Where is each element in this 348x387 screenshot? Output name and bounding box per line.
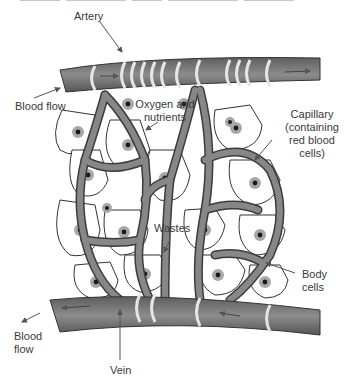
capillary-pointer (255, 140, 272, 160)
capillary-bed-diagram (0, 0, 348, 387)
label-blood-flow-bottom-line1: Blood (14, 330, 42, 343)
label-body-cells-line2: cells (302, 281, 327, 294)
label-blood-flow-bottom: Blood flow (14, 330, 42, 356)
label-artery: Artery (74, 10, 103, 23)
blood-flow-top-pointer (34, 88, 60, 98)
label-body-cells: Body cells (302, 268, 327, 294)
label-capillary-line3: red blood (278, 134, 346, 147)
artery-pointer (100, 22, 122, 52)
label-capillary-line2: (containing (278, 121, 346, 134)
label-oxygen-nutrients: Oxygen and nutrients (130, 98, 200, 124)
label-capillary-line1: Capillary (278, 108, 346, 121)
vein-vessel (50, 294, 320, 335)
blood-flow-bottom-pointer (22, 313, 40, 322)
label-wastes: Wastes (154, 222, 190, 235)
label-oxygen-line1: Oxygen and (130, 98, 200, 111)
label-capillary: Capillary (containing red blood cells) (278, 108, 346, 160)
label-oxygen-line2: nutrients (130, 111, 200, 124)
label-vein: Vein (110, 364, 131, 377)
label-blood-flow-bottom-line2: flow (14, 343, 42, 356)
artery-vessel (60, 58, 320, 93)
label-body-cells-line1: Body (302, 268, 327, 281)
label-blood-flow-top: Blood flow (15, 100, 66, 113)
label-capillary-line4: cells) (278, 147, 346, 160)
